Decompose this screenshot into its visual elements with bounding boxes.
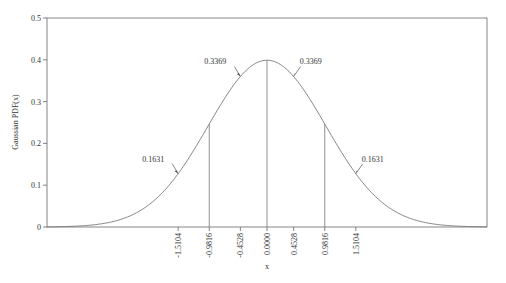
- arrowhead-icon: [175, 170, 179, 174]
- y-tick-label: 0.2: [31, 139, 41, 148]
- y-tick-label: 0.1: [31, 181, 41, 190]
- x-tick-label: 0.9816: [321, 233, 330, 255]
- annotation-label: 0.1631: [142, 155, 164, 164]
- x-tick-label: -0.4528: [236, 233, 245, 258]
- x-tick-label: 1.5104: [352, 233, 361, 255]
- x-tick-label: 0.4528: [290, 233, 299, 255]
- annotation-arrow: [356, 164, 363, 174]
- gaussian-pdf-chart: 00.10.20.30.40.5 -1.5104-0.9816-0.45280.…: [0, 0, 506, 283]
- annotation-arrow: [294, 66, 301, 76]
- annotation-label: 0.3369: [300, 57, 322, 66]
- y-tick-label: 0.3: [31, 98, 41, 107]
- x-axis-title: x: [265, 262, 269, 271]
- y-tick-label: 0.4: [31, 56, 41, 65]
- y-tick-label: 0.5: [31, 14, 41, 23]
- annotation-label: 0.1631: [362, 155, 384, 164]
- y-axis-title: Gaussian PDF(x): [11, 94, 20, 150]
- y-tick-label: 0: [37, 223, 41, 232]
- arrowhead-icon: [237, 73, 241, 77]
- x-tick-label: -1.5104: [174, 233, 183, 258]
- annotations: 0.33690.33690.16310.1631: [142, 57, 384, 173]
- y-axis: 00.10.20.30.40.5: [31, 14, 47, 232]
- vertical-reference-lines: [209, 60, 324, 227]
- x-tick-label: -0.9816: [205, 233, 214, 258]
- annotation-label: 0.3369: [204, 57, 226, 66]
- x-axis: -1.5104-0.9816-0.45280.00000.45280.98161…: [174, 227, 361, 258]
- x-tick-label: 0.0000: [263, 233, 272, 255]
